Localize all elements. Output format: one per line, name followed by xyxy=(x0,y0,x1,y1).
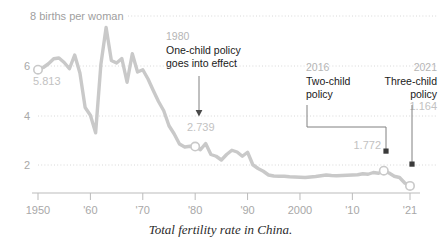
data-point-marker xyxy=(406,182,414,190)
data-point-marker xyxy=(380,167,388,175)
annotation-line-1: Two-child xyxy=(306,75,351,87)
data-point-marker xyxy=(191,142,199,150)
fertility-rate-chart: 8 births per woman6421950'60'70'80'90200… xyxy=(0,0,441,244)
x-axis-tick-label: 1950 xyxy=(26,204,50,216)
value-label-one-child: 2.739 xyxy=(187,121,215,133)
value-labels: 5.8132.7391.7721.164 xyxy=(33,75,437,151)
annotation-year-2021: 2021 xyxy=(414,61,438,73)
x-axis-tick-label: '90 xyxy=(240,204,254,216)
value-label-start: 5.813 xyxy=(33,75,61,87)
y-axis-tick-label: 6 xyxy=(24,60,30,72)
y-axis-tick-label: 4 xyxy=(24,110,30,122)
chart-caption: Total fertility rate in China. xyxy=(0,222,441,238)
x-axis-tick-label: '10 xyxy=(345,204,359,216)
annotation-endpoint xyxy=(383,149,388,154)
x-axis: 1950'60'70'80'902000'10'21 xyxy=(26,193,420,216)
x-axis-tick-label: 2000 xyxy=(288,204,312,216)
annotation-line-2: goes into effect xyxy=(166,57,237,69)
x-axis-tick-label: '80 xyxy=(188,204,202,216)
annotation-line-1: Three-child xyxy=(384,75,437,87)
data-point-markers xyxy=(34,65,414,190)
annotation-line-2: policy xyxy=(410,88,438,100)
annotation-one-child-policy: 1980One-child policygoes into effect xyxy=(166,30,241,117)
annotation-year-2016: 2016 xyxy=(306,61,330,73)
value-label-two-child: 1.772 xyxy=(353,139,381,151)
x-axis-tick-label: '70 xyxy=(136,204,150,216)
y-axis-unit-label: 8 births per woman xyxy=(30,10,124,22)
chart-canvas: 8 births per woman6421950'60'70'80'90200… xyxy=(0,0,441,244)
annotation-three-child-policy: 2021Three-childpolicy xyxy=(384,61,437,167)
x-axis-tick-label: '21 xyxy=(403,204,417,216)
x-axis-tick-label: '60 xyxy=(83,204,97,216)
y-axis-tick-label: 2 xyxy=(24,159,30,171)
annotation-endpoint xyxy=(409,162,414,167)
annotation-year-1980: 1980 xyxy=(166,30,190,42)
value-label-three-child: 1.164 xyxy=(409,100,437,112)
annotation-line-1: One-child policy xyxy=(166,44,241,56)
annotation-line-2: policy xyxy=(306,88,334,100)
data-point-marker xyxy=(34,65,42,73)
